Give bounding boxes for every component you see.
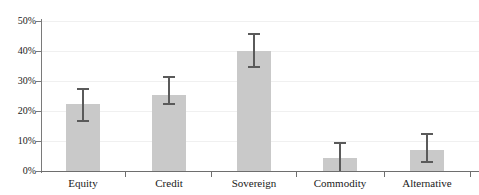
y-tick-40 [36,51,42,52]
x-label-alternative: Alternative [382,177,472,189]
y-label-30: 30% [2,76,36,86]
error-bar-sovereign [253,34,255,67]
x-label-credit: Credit [124,177,214,189]
error-cap-lower-equity [77,120,89,122]
y-tick-50 [36,21,42,22]
y-label-50: 50% [2,16,36,26]
y-label-10: 10% [2,136,36,146]
bar-chart: 50% 40% 30% 20% 10% 0% EquityCreditSover… [0,0,479,195]
y-tick-20 [36,111,42,112]
bar-credit [152,95,186,172]
error-cap-upper-credit [163,76,175,78]
y-label-20: 20% [2,106,36,116]
error-bar-equity [82,89,84,121]
error-cap-lower-alternative [421,161,433,163]
error-cap-upper-sovereign [248,33,260,35]
error-cap-upper-commodity [334,142,346,144]
y-axis-line [41,19,42,173]
y-tick-10 [36,141,42,142]
bar-sovereign [237,51,271,171]
error-cap-upper-equity [77,88,89,90]
gridline-50 [41,21,479,22]
error-bar-alternative [426,134,428,162]
y-axis-labels: 50% 40% 30% 20% 10% 0% [0,0,36,195]
error-cap-lower-credit [163,103,175,105]
x-axis-line [41,171,479,172]
y-label-0: 0% [2,166,36,176]
y-tick-30 [36,81,42,82]
error-bar-commodity [339,143,341,171]
x-label-equity: Equity [38,177,128,189]
x-label-commodity: Commodity [295,177,385,189]
x-label-sovereign: Sovereign [209,177,299,189]
error-cap-upper-alternative [421,133,433,135]
error-cap-lower-sovereign [248,66,260,68]
error-bar-credit [168,77,170,105]
y-label-40: 40% [2,46,36,56]
